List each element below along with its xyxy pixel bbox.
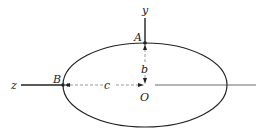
point-a-dot [143,41,147,45]
c-arrow-right [138,83,144,87]
point-b-label: B [52,73,61,86]
point-b-dot [61,83,65,87]
point-a-label: A [133,31,142,44]
c-label: c [104,79,110,92]
c-arrow-left [64,83,70,87]
origin-label: O [140,91,149,104]
b-arrow-down [143,78,147,84]
b-arrow-up [143,44,147,50]
ellipse-diagram: y z A B O b c [0,0,268,137]
b-label: b [141,63,148,76]
y-axis-label: y [141,4,149,17]
z-axis-label: z [10,79,17,92]
